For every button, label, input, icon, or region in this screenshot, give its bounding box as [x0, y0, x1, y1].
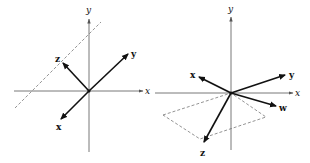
- right-y-axis-label: y: [227, 4, 234, 14]
- right-label-w: w: [278, 103, 287, 113]
- right-vector-w: [231, 93, 276, 106]
- diagram-canvas: x y z y x x y x y w z: [0, 0, 310, 163]
- right-label-y: y: [288, 70, 295, 80]
- right-vector-y: [231, 75, 285, 93]
- right-vector-x: [199, 77, 231, 93]
- left-x-axis-label: x: [145, 86, 150, 96]
- left-dashed-line: [15, 22, 101, 108]
- left-label-y: y: [130, 49, 137, 59]
- left-vector-x: [61, 91, 89, 119]
- left-origin: [88, 90, 91, 93]
- left-vector-z: [63, 63, 89, 91]
- left-vector-y: [89, 54, 128, 91]
- right-origin: [230, 92, 233, 95]
- right-diagram: x y x y w z: [155, 4, 300, 158]
- left-label-z: z: [55, 54, 60, 64]
- left-y-axis-label: y: [85, 5, 92, 15]
- right-x-axis-label: x: [295, 88, 300, 98]
- right-dashed-parallelogram: [163, 93, 266, 139]
- right-label-x: x: [190, 70, 196, 80]
- left-label-x: x: [56, 122, 62, 132]
- right-label-z: z: [200, 148, 205, 158]
- left-diagram: x y z y x: [14, 5, 150, 152]
